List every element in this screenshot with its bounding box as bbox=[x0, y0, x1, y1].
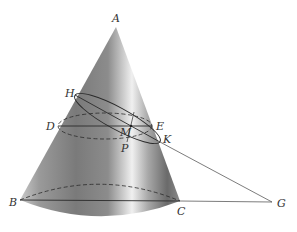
label-B: B bbox=[8, 196, 17, 209]
cone-diagram: A H D E M K P B C G bbox=[0, 0, 297, 232]
label-P: P bbox=[120, 142, 129, 155]
label-A: A bbox=[111, 12, 120, 25]
label-D: D bbox=[45, 120, 55, 133]
label-G: G bbox=[277, 197, 286, 210]
label-C: C bbox=[177, 205, 186, 218]
segment-CG bbox=[180, 201, 272, 202]
label-H: H bbox=[64, 87, 75, 100]
label-M: M bbox=[119, 126, 132, 139]
label-E: E bbox=[155, 120, 164, 133]
label-K: K bbox=[162, 133, 172, 146]
